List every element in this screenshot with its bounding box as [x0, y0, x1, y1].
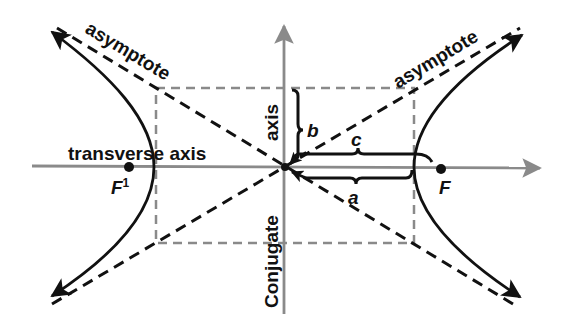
- hyperbola-branch-right-lower: [414, 167, 520, 297]
- a-label: a: [348, 187, 359, 208]
- a-brace: [306, 170, 412, 184]
- asymptote-label-right: asymptote: [389, 25, 481, 92]
- focus-left-superscript: 1: [123, 176, 130, 190]
- c-brace: [294, 148, 432, 162]
- c-pointer: [290, 160, 294, 164]
- focus-right-point: [436, 164, 446, 174]
- conjugate-axis-label-top: axis: [261, 104, 282, 141]
- hyperbola-diagram: asymptote asymptote transverse axis axis…: [0, 0, 562, 331]
- b-brace: [292, 90, 303, 160]
- a-pointer: [292, 172, 306, 178]
- hyperbola-branch-left-lower: [52, 167, 154, 296]
- center-point: [281, 163, 289, 171]
- c-label: c: [351, 129, 362, 150]
- transverse-axis-label: transverse axis: [68, 143, 206, 164]
- focus-right-label: F: [439, 177, 452, 198]
- focus-left-label: F1: [111, 176, 130, 198]
- b-label: b: [307, 120, 319, 141]
- conjugate-axis-label-bottom: Conjugate: [261, 215, 282, 308]
